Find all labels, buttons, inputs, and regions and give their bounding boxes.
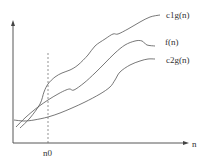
x-axis-arrow-icon [183, 141, 189, 145]
asymptotic-diagram: n n0 c1g(n) f(n) c2g(n) [0, 0, 204, 163]
threshold-label: n0 [43, 148, 53, 158]
curve-function [16, 40, 155, 127]
x-axis-label: n [192, 139, 197, 149]
y-axis-arrow-icon [11, 20, 15, 26]
curve-label-function: f(n) [165, 37, 179, 47]
curve-label-upper-bound: c1g(n) [166, 10, 190, 20]
curve-label-lower-bound: c2g(n) [166, 55, 190, 65]
curve-upper-bound [20, 15, 160, 128]
